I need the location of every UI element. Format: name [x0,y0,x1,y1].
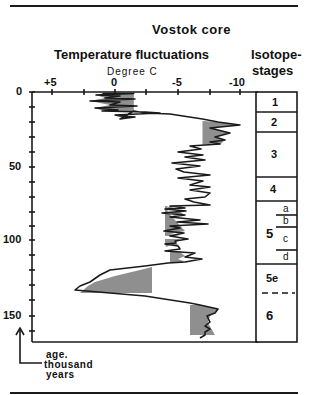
stage-label-4: 4 [270,183,276,195]
stage-label-5e: 5e [266,272,278,284]
x-tick-label: -5 [172,76,182,88]
substage-label-b: b [283,215,290,226]
stage-label-3: 3 [271,148,277,160]
stage-label-6: 6 [266,308,273,323]
y-tick-label: 100 [3,233,21,245]
y-tick-label: 50 [9,160,21,172]
x-tick-label: 0 [111,76,117,88]
x-axis-top [32,89,258,95]
substage-label-c: c [283,233,289,244]
x-tick-label: +5 [44,76,57,88]
y-tick-label: 0 [16,85,22,97]
substage-label-a: a [283,203,290,214]
age-arrow [16,328,42,363]
substage-label-d: d [283,251,290,262]
stage-label-5: 5 [266,226,273,241]
age-label-line3: years [46,369,75,380]
y-axis-left [29,92,258,342]
y-tick-label: 150 [3,309,21,321]
stage-label-2: 2 [271,116,277,128]
chart-canvas [0,0,315,395]
isotope-stages-box [256,92,297,342]
stage-label-1: 1 [272,96,278,108]
x-tick-label: -10 [229,76,245,88]
